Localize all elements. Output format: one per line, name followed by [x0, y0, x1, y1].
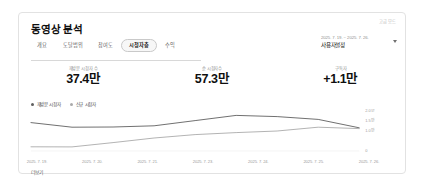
line-chart[interactable]: 01.0만1.5만2.0만 [27, 109, 399, 157]
x-tick-label: 2025. 7. 20. [82, 159, 102, 164]
metric-value: 57.3만 [195, 73, 229, 86]
card-header: 동영상 분석 고급 모드 개요 도달범위 참여도 시청자층 수익 2025. 7… [19, 13, 405, 59]
date-range-label: 사용자설정 [321, 41, 369, 49]
video-analytics-panel: 동영상 분석 고급 모드 개요 도달범위 참여도 시청자층 수익 2025. 7… [0, 0, 424, 191]
chart-canvas: 01.0만1.5만2.0만 [27, 109, 399, 157]
see-more-link[interactable]: 더보기 [31, 168, 43, 175]
metric-label: 순 시청자수 [202, 65, 223, 71]
legend-label: 신규 시청자 [76, 101, 97, 107]
chart-series-신규 시청자 [31, 127, 359, 147]
metric-returning-viewers: 재방문 시청자 수 37.4만 [19, 65, 148, 86]
svg-text:1.0만: 1.0만 [365, 128, 375, 133]
chart-legend: 재방문 시청자 신규 시청자 [31, 101, 96, 107]
legend-swatch-icon [70, 103, 73, 106]
tab-engagement[interactable]: 참여도 [90, 39, 121, 52]
page-title: 동영상 분석 [31, 21, 83, 36]
metric-row: 재방문 시청자 수 37.4만 순 시청자수 57.3만 구독자 +1.1만 [19, 65, 405, 86]
legend-item-returning[interactable]: 재방문 시청자 [31, 101, 61, 107]
chart-series-재방문 시청자 [31, 115, 359, 127]
svg-text:0: 0 [365, 148, 368, 153]
legend-swatch-icon [31, 103, 34, 106]
metric-value: 37.4만 [66, 73, 100, 86]
x-tick-label: 2025. 7. 19. [27, 159, 47, 164]
date-range-selector[interactable]: 2025. 7. 19. ~ 2025. 7. 26. 사용자설정 [321, 35, 397, 49]
legend-label: 재방문 시청자 [37, 101, 62, 107]
x-tick-label: 2025. 7. 23. [193, 159, 213, 164]
svg-text:1.5만: 1.5만 [365, 118, 375, 123]
metric-value: +1.1만 [323, 73, 358, 86]
metric-label: 재방문 시청자 수 [69, 65, 99, 71]
tab-revenue[interactable]: 수익 [157, 39, 183, 52]
tab-divider [31, 60, 201, 61]
advanced-mode-link[interactable]: 고급 모드 [379, 18, 396, 24]
tab-overview[interactable]: 개요 [29, 39, 55, 52]
x-tick-label: 2025. 7. 25. [303, 159, 323, 164]
svg-text:2.0만: 2.0만 [365, 109, 375, 113]
x-tick-label: 2025. 7. 26. [359, 159, 379, 164]
tab-reach[interactable]: 도달범위 [55, 39, 91, 52]
metric-unique-viewers: 순 시청자수 57.3만 [148, 65, 277, 86]
metric-subscribers: 구독자 +1.1만 [276, 65, 405, 86]
date-range-text: 2025. 7. 19. ~ 2025. 7. 26. 사용자설정 [321, 35, 369, 49]
analytics-card: 동영상 분석 고급 모드 개요 도달범위 참여도 시청자층 수익 2025. 7… [18, 12, 406, 174]
chart-x-axis: 2025. 7. 19.2025. 7. 20.2025. 7. 21.2025… [31, 159, 383, 167]
chevron-down-icon [393, 40, 397, 43]
tab-bar: 개요 도달범위 참여도 시청자층 수익 [29, 39, 183, 52]
x-tick-label: 2025. 7. 24. [248, 159, 268, 164]
legend-item-new[interactable]: 신규 시청자 [70, 101, 96, 107]
x-tick-label: 2025. 7. 21. [137, 159, 157, 164]
date-range-value: 2025. 7. 19. ~ 2025. 7. 26. [321, 35, 369, 40]
metric-label: 구독자 [335, 65, 347, 71]
tab-audience[interactable]: 시청자층 [121, 39, 157, 52]
